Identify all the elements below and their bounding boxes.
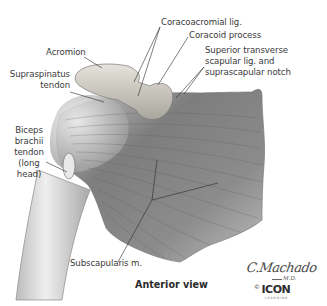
- label-biceps-4: (long: [12, 158, 46, 168]
- publisher-subtitle: LEARNING: [265, 296, 288, 300]
- label-acromion: Acromion: [46, 47, 86, 57]
- label-superior-transverse-1: Superior transverse: [205, 45, 288, 55]
- label-subscapularis: Subscapularis m.: [70, 258, 142, 268]
- label-superior-transverse-2: scapular lig. and: [205, 56, 274, 66]
- copyright-symbol: ©: [254, 283, 260, 290]
- label-supraspinatus-2: tendon: [8, 80, 70, 90]
- publisher-name: ICON: [262, 283, 291, 296]
- publisher-logo: ©ICON: [254, 283, 290, 296]
- label-biceps-2: brachii: [12, 136, 46, 146]
- artist-signature: C.Machado: [246, 260, 318, 275]
- label-coracoacromial-lig: Coracoacromial lig.: [161, 17, 242, 27]
- anatomy-illustration: Coracoacromial lig. Coracoid process Sup…: [0, 0, 327, 306]
- artist-credential: M.D.: [283, 275, 296, 281]
- label-coracoid-process: Coracoid process: [189, 30, 261, 40]
- label-superior-transverse-3: suprascapular notch: [205, 67, 291, 77]
- label-supraspinatus-1: Supraspinatus: [8, 69, 70, 79]
- label-biceps-5: head): [12, 169, 46, 179]
- label-biceps-3: tendon: [12, 147, 46, 157]
- biceps-tendon: [63, 153, 75, 179]
- label-biceps-1: Biceps: [12, 125, 46, 135]
